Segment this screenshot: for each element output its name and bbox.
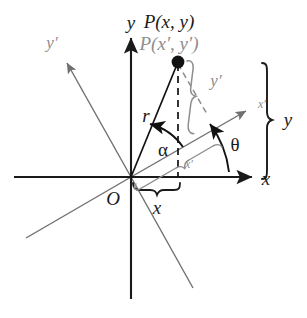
label-axis-x-prime: x′ — [257, 97, 266, 111]
label-brace-y-prime: y′ — [208, 71, 222, 90]
label-brace-x: x — [152, 197, 162, 218]
label-point-P-xy: P(x, y) — [143, 11, 195, 33]
point-P-marker — [172, 56, 185, 69]
label-angle-alpha: α — [158, 139, 168, 160]
brace-y — [262, 63, 272, 179]
coordinate-rotation-svg: P(x, y) P(x′, y′) y x y′ x′ O r α θ y x … — [0, 0, 307, 318]
brace-y-prime — [164, 59, 217, 135]
x-prime-axis — [26, 111, 246, 238]
label-point-P-xy-prime: P(x′, y′) — [139, 33, 199, 55]
label-origin: O — [106, 188, 120, 209]
label-angle-theta: θ — [230, 134, 239, 155]
label-axis-y: y — [125, 12, 136, 33]
angle-theta-arc — [210, 124, 229, 172]
label-axis-y-prime: y′ — [44, 33, 58, 52]
label-axis-x: x — [261, 168, 271, 189]
label-brace-x-prime: x′ — [184, 157, 193, 171]
label-brace-y: y — [282, 109, 293, 130]
label-radius: r — [142, 105, 150, 126]
figure-canvas: P(x, y) P(x′, y′) y x y′ x′ O r α θ y x … — [0, 0, 307, 318]
radius-line — [131, 62, 178, 177]
